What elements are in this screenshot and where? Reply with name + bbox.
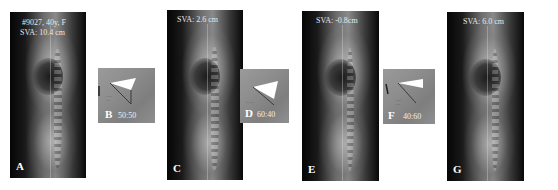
annotation-notes: ········ [106, 95, 113, 103]
spine-shadow [54, 49, 62, 169]
radiograph-panel-e: SVA: -0.8cm E [302, 11, 379, 181]
plumb-line [50, 25, 51, 178]
plumb-line [342, 25, 343, 181]
sva-value: SVA: 6.0 cm [463, 17, 504, 26]
sva-value: SVA: 10.4 cm [20, 28, 65, 37]
radiograph-panel-c: SVA: 2.6 cm C [167, 10, 243, 180]
plumb-line [487, 26, 488, 181]
spine-shadow [211, 47, 219, 169]
panel-label-d: D [245, 107, 253, 119]
wedge-inset-f: ········· F 40:60 [383, 69, 435, 124]
panel-label-f: F [388, 109, 395, 121]
plumb-line [207, 24, 208, 180]
wedge-ratio: 40:60 [403, 112, 421, 121]
panel-label-g: G [453, 163, 462, 175]
radiograph-panel-a: #9027, 40y, F SVA: 10.4 cm A [10, 12, 86, 178]
sva-value: SVA: 2.6 cm [177, 15, 218, 24]
annotation-notes: ······ [246, 101, 254, 105]
panel-label-e: E [308, 163, 315, 175]
annotation-notes: ········· [395, 99, 402, 107]
patient-info: #9027, 40y, F [22, 18, 66, 27]
panel-label-b: B [105, 108, 112, 120]
wedge-ratio: 50:50 [118, 111, 136, 120]
panel-label-a: A [16, 160, 24, 172]
wedge-inset-d: ······ D 60:40 [240, 69, 289, 123]
sva-value: SVA: -0.8cm [316, 16, 358, 25]
wedge-inset-b: ········ B 50:50 [98, 68, 155, 123]
radiograph-panel-g: SVA: 6.0 cm G [447, 12, 524, 181]
wedge-ratio: 60:40 [257, 110, 275, 119]
panel-label-c: C [173, 162, 181, 174]
